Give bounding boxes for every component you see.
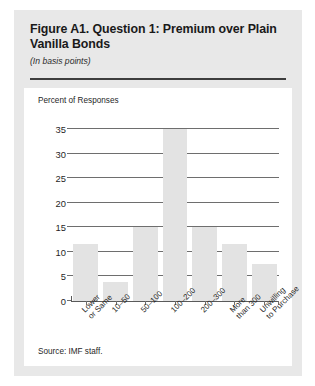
figure-panel: Figure A1. Question 1: Premium over Plai… bbox=[14, 10, 302, 376]
y-tick-label: 0 bbox=[61, 296, 66, 307]
y-tick-label: 25 bbox=[56, 173, 66, 184]
bars-layer bbox=[71, 129, 279, 301]
title-divider bbox=[30, 78, 286, 80]
title-block: Figure A1. Question 1: Premium over Plai… bbox=[30, 22, 288, 67]
y-tick-label: 35 bbox=[56, 124, 66, 135]
bar-slot bbox=[190, 129, 220, 301]
y-tick-label: 30 bbox=[56, 148, 66, 159]
y-tick-label: 10 bbox=[56, 246, 66, 257]
bar-slot bbox=[249, 129, 279, 301]
y-axis-line bbox=[71, 296, 72, 301]
bar-slot bbox=[220, 129, 250, 301]
bar-slot bbox=[101, 129, 131, 301]
plot-area: 05101520253035 Lower or Same10–5050–1001… bbox=[71, 129, 279, 301]
bar-slot bbox=[130, 129, 160, 301]
y-axis-title: Percent of Responses bbox=[38, 96, 119, 105]
bar[interactable] bbox=[163, 129, 188, 301]
page-title: Figure A1. Question 1: Premium over Plai… bbox=[30, 22, 288, 52]
bar-slot bbox=[71, 129, 101, 301]
figure-subtitle: (In basis points) bbox=[30, 56, 288, 67]
chart-container: Percent of Responses 05101520253035 Lowe… bbox=[24, 88, 292, 366]
bar-slot bbox=[160, 129, 190, 301]
source-note: Source: IMF staff. bbox=[38, 347, 102, 356]
bar[interactable] bbox=[133, 227, 158, 301]
y-tick-label: 20 bbox=[56, 197, 66, 208]
y-tick-label: 15 bbox=[56, 222, 66, 233]
y-tick-label: 5 bbox=[61, 271, 66, 282]
